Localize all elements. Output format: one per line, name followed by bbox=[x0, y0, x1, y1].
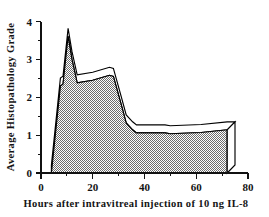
x-tick-label-0: 0 bbox=[38, 181, 44, 193]
x-tick-label-60: 60 bbox=[191, 181, 203, 193]
y-tick-label-0: 0 bbox=[27, 167, 33, 179]
y-tick-label-1: 1 bbox=[27, 129, 33, 141]
y-tick-label-4: 4 bbox=[27, 16, 33, 28]
data-series-ribbon bbox=[51, 28, 235, 173]
x-axis-title: Hours after intravitreal injection of 10… bbox=[24, 198, 249, 209]
y-axis-major-ticks bbox=[36, 22, 42, 174]
x-axis-tick-labels: 0 20 40 60 80 bbox=[38, 181, 254, 193]
chart-figure: 0 1 2 3 4 0 20 40 60 80 Hours after intr… bbox=[0, 0, 269, 217]
x-tick-label-80: 80 bbox=[243, 181, 255, 193]
y-axis-title: Average Histopathology Grade bbox=[5, 23, 16, 171]
y-tick-label-3: 3 bbox=[27, 53, 33, 65]
ribbon-front-face bbox=[51, 36, 227, 173]
x-axis-major-ticks bbox=[41, 173, 248, 179]
x-tick-label-40: 40 bbox=[139, 181, 151, 193]
y-tick-label-2: 2 bbox=[27, 91, 33, 103]
ribbon-end-cap bbox=[227, 122, 235, 173]
y-axis-tick-labels: 0 1 2 3 4 bbox=[27, 16, 33, 179]
x-tick-label-20: 20 bbox=[87, 181, 99, 193]
chart-plot-area: 0 1 2 3 4 0 20 40 60 80 Hours after intr… bbox=[0, 0, 269, 217]
